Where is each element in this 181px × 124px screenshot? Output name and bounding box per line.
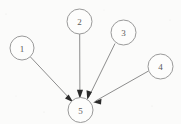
edge-3-to-5-line [89,44,116,98]
node-3-label: 3 [121,28,126,38]
node-3[interactable]: 3 [111,20,136,45]
node-group: 1 2 3 4 5 [10,9,173,123]
node-4[interactable]: 4 [148,54,173,79]
node-2[interactable]: 2 [67,9,92,34]
node-1-label: 1 [20,44,25,54]
node-4-label: 4 [158,62,163,72]
node-1[interactable]: 1 [10,36,34,60]
edge-4-to-5 [93,71,148,105]
edge-1-to-5-line [31,57,72,101]
edge-group [31,34,149,105]
edge-2-to-5 [77,34,83,99]
edge-3-to-5 [87,44,116,100]
node-5[interactable]: 5 [68,98,93,123]
diagram-canvas: 1 2 3 4 5 [0,0,181,124]
node-2-label: 2 [77,17,82,27]
edge-4-to-5-line [96,71,149,101]
node-5-label: 5 [78,106,83,116]
edge-1-to-5 [31,57,74,102]
directed-graph: 1 2 3 4 5 [0,0,181,124]
